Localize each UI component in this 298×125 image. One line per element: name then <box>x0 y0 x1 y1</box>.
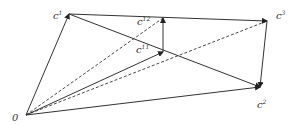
edge-O-c11 <box>26 52 163 115</box>
edge-c3-c2 <box>260 21 267 87</box>
label-c12: c12 <box>137 16 150 27</box>
label-c11: c11 <box>136 44 149 55</box>
edge-c1-c2 <box>69 14 260 87</box>
vector-diagram: c1 c12 c11 c3 c2 0 <box>0 0 298 125</box>
label-c3: c3 <box>276 10 285 21</box>
label-c1: c1 <box>53 10 62 21</box>
label-origin: 0 <box>12 113 18 123</box>
edge-c1-c3 <box>69 14 267 21</box>
label-c2: c2 <box>257 99 266 110</box>
